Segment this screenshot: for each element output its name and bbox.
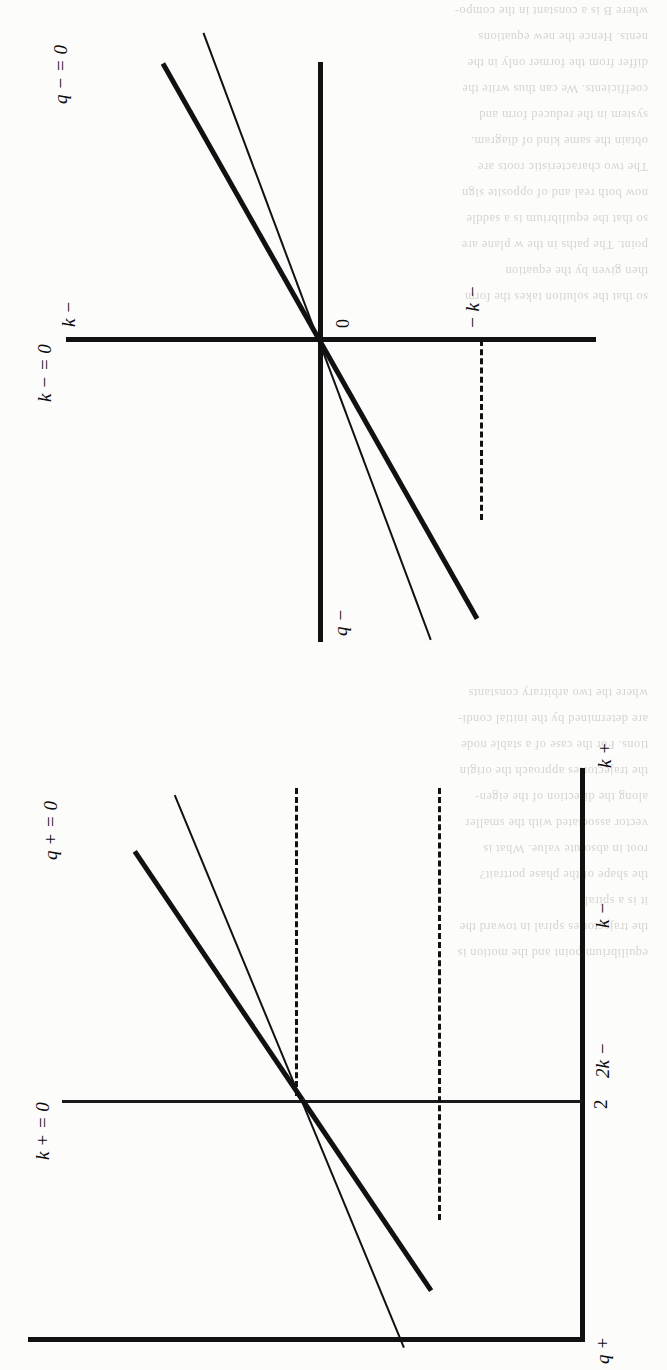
label-k-plus-axis: k + — [594, 742, 616, 768]
steep-saddle-path-thick-neg — [318, 341, 479, 620]
label-q-plus-nullcline: q + = 0 — [40, 801, 62, 860]
dashed-projection-k-minus — [438, 788, 441, 1220]
steep-saddle-path-thick — [161, 62, 323, 343]
nullcline-k-plus-zero — [62, 1101, 582, 1104]
label-k-minus-nullcline: k − = 0 — [34, 344, 56, 402]
label-k-minus-axis: k − — [58, 301, 80, 327]
label-q-plus-axis: q + — [592, 1337, 614, 1364]
figure-phase-diagram-plus: k + = 0 q + = 0 k + q + 2 2k − k − — [0, 748, 640, 1368]
label-origin-zero: 0 — [333, 319, 354, 328]
scanned-page: where B is a constant in the compo-nents… — [0, 0, 667, 1370]
label-neg-k-tick: − k − — [462, 285, 484, 329]
bleed-through-line: are determined by the initial condi- — [348, 711, 648, 726]
label-k-plus-nullcline: k + = 0 — [32, 1102, 54, 1160]
bleed-through-line: where B is a constant in the compo- — [348, 3, 648, 18]
frame-left-border-q-plus — [28, 1337, 584, 1342]
label-q-minus-nullcline: q − = 0 — [50, 45, 72, 104]
label-q-minus-axis: q − — [330, 609, 352, 636]
dashed-projection-neg-k — [480, 340, 483, 520]
bleed-through-line: where the two arbitrary constants — [348, 685, 648, 700]
figure-phase-diagram-minus: k − = 0 k − q − = 0 q − 0 − k − — [0, 40, 640, 660]
tick-label-k-minus: k − — [592, 902, 614, 928]
steep-saddle-path-thick — [133, 850, 305, 1102]
tick-label-two: 2 — [590, 1100, 612, 1110]
shallow-saddle-path-thin-neg — [318, 342, 432, 641]
vertical-axis-k-minus — [66, 337, 596, 342]
dashed-projection-2k-minus — [295, 788, 298, 1096]
shallow-saddle-path-thin — [203, 32, 321, 342]
shallow-saddle-path-thin — [174, 795, 302, 1101]
horizontal-axis-k-plus — [580, 768, 585, 1342]
tick-label-2k-minus: 2k − — [592, 1042, 614, 1078]
